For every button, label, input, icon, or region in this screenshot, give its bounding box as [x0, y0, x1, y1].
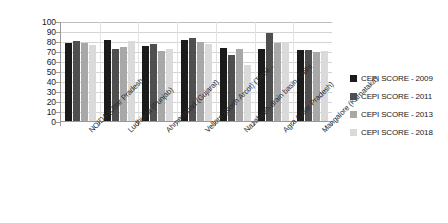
legend-item-label: CEPI SCORE - 2018: [361, 128, 433, 137]
bar[interactable]: [236, 49, 243, 121]
legend-swatch-icon: [350, 111, 357, 118]
bar[interactable]: [89, 45, 96, 121]
legend-item-label: CEPI SCORE - 2009: [361, 74, 433, 83]
legend-swatch-icon: [350, 93, 357, 100]
legend-item[interactable]: CEPI SCORE - 2013: [350, 110, 448, 119]
legend-item[interactable]: CEPI SCORE - 2011: [350, 92, 448, 101]
y-axis-tick-label: 80: [47, 38, 56, 46]
y-axis-tick-label: 30: [47, 88, 56, 96]
bar[interactable]: [158, 51, 165, 121]
legend: CEPI SCORE - 2009CEPI SCORE - 2011CEPI S…: [350, 74, 448, 146]
bar[interactable]: [65, 43, 72, 121]
y-axis-tick-label: 60: [47, 58, 56, 66]
bar[interactable]: [120, 47, 127, 121]
legend-swatch-icon: [350, 75, 357, 82]
y-axis-tick-label: 70: [47, 48, 56, 56]
legend-item[interactable]: CEPI SCORE - 2018: [350, 128, 448, 137]
bar-group: [61, 22, 100, 121]
y-axis-tick-label: 10: [47, 108, 56, 116]
bar[interactable]: [73, 41, 80, 121]
y-axis-tick-label: 50: [47, 68, 56, 76]
x-axis-labels: NOIDA (Uttar PradeshLudhiana (Punjab)Ahm…: [0, 126, 340, 223]
bar[interactable]: [274, 43, 281, 121]
chart-container: 1009080706050403020100 NOIDA (Uttar Prad…: [0, 0, 448, 223]
plot-wrapper: 1009080706050403020100 NOIDA (Uttar Prad…: [0, 0, 340, 223]
y-axis-tick-label: 40: [47, 78, 56, 86]
bar[interactable]: [81, 43, 88, 121]
y-axis-tick-label: 20: [47, 98, 56, 106]
y-axis-tick-label: 90: [47, 28, 56, 36]
legend-swatch-icon: [350, 129, 357, 136]
legend-item-label: CEPI SCORE - 2013: [361, 110, 433, 119]
legend-item[interactable]: CEPI SCORE - 2009: [350, 74, 448, 83]
y-axis: 1009080706050403020100: [26, 18, 56, 128]
y-axis-tick-label: 100: [42, 18, 56, 26]
bar[interactable]: [313, 52, 320, 121]
legend-item-label: CEPI SCORE - 2011: [361, 92, 432, 101]
bar[interactable]: [197, 42, 204, 121]
